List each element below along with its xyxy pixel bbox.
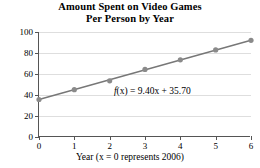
chart-title: Amount Spent on Video Games Per Person b… bbox=[0, 1, 260, 24]
y-tick-label: 0 bbox=[29, 132, 34, 142]
x-axis-title: Year (x = 0 represents 2006) bbox=[0, 152, 260, 162]
y-tick-label: 40 bbox=[24, 90, 33, 100]
data-point-marker bbox=[178, 57, 183, 62]
x-tick-mark bbox=[251, 136, 252, 140]
x-tick-label: 4 bbox=[178, 141, 183, 151]
x-tick-label: 1 bbox=[72, 141, 77, 151]
chart-figure: Amount Spent on Video Games Per Person b… bbox=[0, 0, 260, 168]
x-tick-label: 5 bbox=[213, 141, 218, 151]
trendline-equation-annotation: f(x) = 9.40x + 35.70 bbox=[114, 86, 191, 96]
x-tick-label: 0 bbox=[37, 141, 42, 151]
y-tick-label: 60 bbox=[24, 69, 33, 79]
data-point-marker bbox=[36, 97, 41, 102]
data-point-marker bbox=[248, 38, 253, 43]
x-tick-label: 2 bbox=[107, 141, 112, 151]
x-tick-label: 3 bbox=[143, 141, 148, 151]
data-point-marker bbox=[213, 47, 218, 52]
data-point-marker bbox=[72, 87, 77, 92]
data-point-marker bbox=[107, 78, 112, 83]
data-point-marker bbox=[142, 67, 147, 72]
chart-title-line-2: Per Person by Year bbox=[0, 13, 260, 25]
plot-area: 0204060801000123456 bbox=[38, 32, 250, 137]
equation-x-paren: (x) bbox=[117, 86, 128, 96]
x-tick-label: 6 bbox=[249, 141, 254, 151]
chart-title-line-1: Amount Spent on Video Games bbox=[58, 1, 201, 12]
y-tick-label: 20 bbox=[24, 111, 33, 121]
y-tick-label: 100 bbox=[20, 27, 34, 37]
equation-rest: = 9.40x + 35.70 bbox=[128, 86, 191, 96]
data-overlay bbox=[39, 32, 251, 137]
y-tick-label: 80 bbox=[24, 48, 33, 58]
